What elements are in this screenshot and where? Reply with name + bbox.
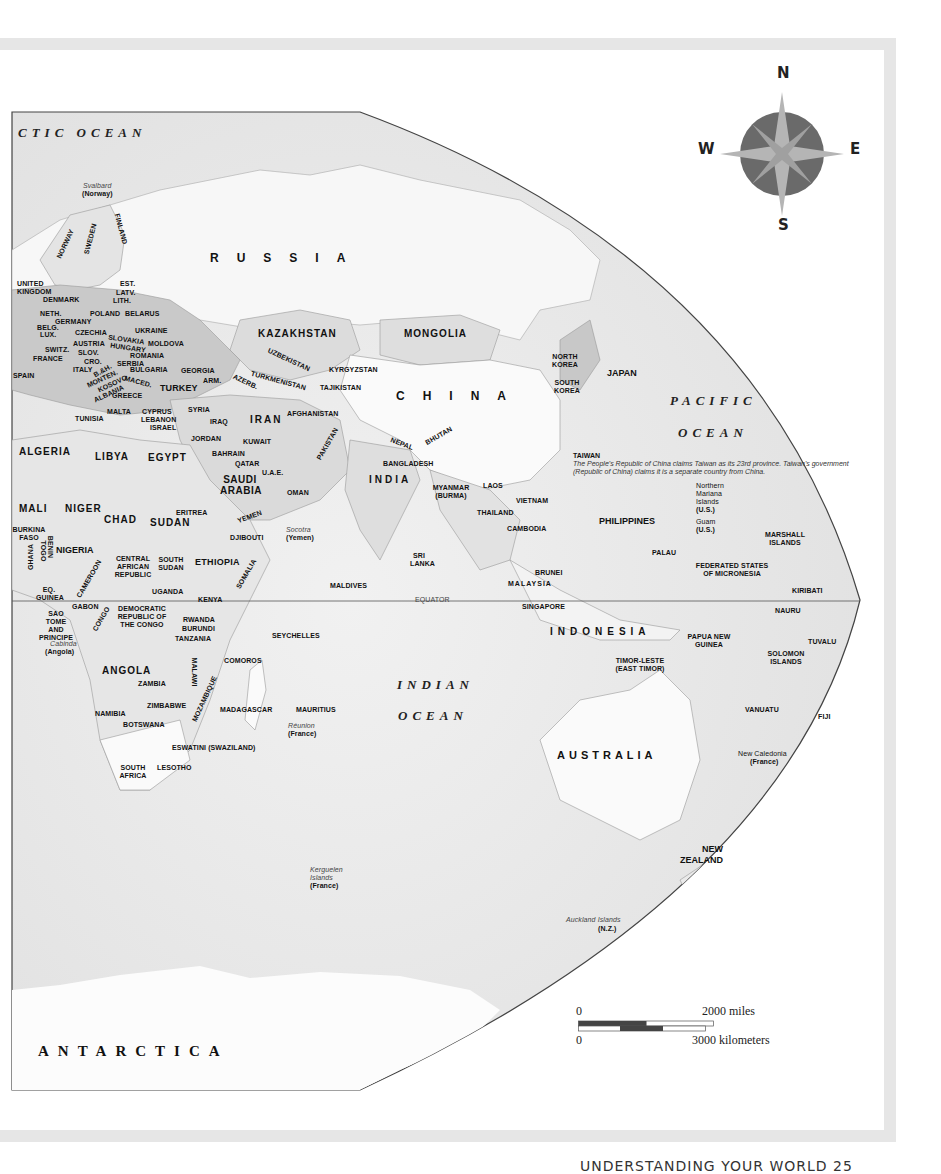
- country-label-maldives: MALDIVES: [330, 582, 367, 590]
- country-label-iran: IRAN: [250, 414, 282, 425]
- country-label-thailand: THAILAND: [477, 509, 514, 517]
- country-label-singapore: SINGAPORE: [522, 603, 565, 611]
- country-label-bulgaria: BULGARIA: [130, 366, 168, 374]
- country-label-bahrain: BAHRAIN: [212, 450, 245, 458]
- socotra-label: Socotra: [286, 526, 311, 534]
- country-label-solomon: SOLOMON ISLANDS: [766, 650, 806, 666]
- country-label-new-zealand: NEW ZEALAND: [675, 844, 723, 866]
- country-label-botswana: BOTSWANA: [123, 721, 165, 729]
- country-label-cro: CRO.: [84, 358, 102, 366]
- page-footer: UNDERSTANDING YOUR WORLD 25: [580, 1158, 853, 1174]
- country-label-moldova: MOLDOVA: [148, 340, 184, 348]
- country-label-spain: SPAIN: [13, 372, 34, 380]
- new-caledonia-owner: (France): [750, 758, 778, 766]
- country-label-micronesia: FEDERATED STATES OF MICRONESIA: [692, 562, 772, 578]
- country-label-poland: POLAND: [90, 310, 120, 318]
- country-label-tunisia: TUNISIA: [75, 415, 104, 423]
- country-label-iraq: IRAQ: [210, 418, 228, 426]
- compass-east: E: [850, 140, 860, 158]
- country-label-south-sudan: SOUTH SUDAN: [158, 556, 184, 572]
- country-label-oman: OMAN: [287, 489, 309, 497]
- pacific-ocean-label-2: OCEAN: [678, 425, 748, 441]
- country-label-brunei: BRUNEI: [535, 569, 562, 577]
- scale-miles-label: 2000 miles: [702, 1004, 755, 1019]
- country-label-lux: LUX.: [40, 331, 56, 339]
- country-label-chad: CHAD: [104, 514, 137, 525]
- country-label-czechia: CZECHIA: [75, 329, 107, 337]
- country-label-seychelles: SEYCHELLES: [272, 632, 320, 640]
- country-label-timor: TIMOR-LESTE (EAST TIMOR): [612, 657, 668, 673]
- country-label-saudi: SAUDI ARABIA: [220, 474, 260, 496]
- auckland-label: Auckland Islands: [566, 916, 621, 924]
- country-label-south-africa: SOUTH AFRICA: [118, 764, 148, 780]
- country-label-palau: PALAU: [652, 549, 676, 557]
- reunion-owner: (France): [288, 730, 316, 738]
- country-label-zimbabwe: ZIMBABWE: [147, 702, 186, 710]
- country-label-car: CENTRAL AFRICAN REPUBLIC: [113, 555, 153, 579]
- country-label-gabon: GABON: [72, 603, 99, 611]
- compass-rose-icon: [720, 82, 850, 222]
- country-label-turkey: TURKEY: [160, 384, 198, 392]
- country-label-niger: NIGER: [65, 503, 102, 514]
- country-label-jordan: JORDAN: [191, 435, 221, 443]
- arctic-ocean-label: CTIC OCEAN: [18, 125, 146, 141]
- reunion-label: Réunion: [288, 722, 315, 730]
- country-label-namibia: NAMIBIA: [95, 710, 126, 718]
- scale-km-zero: 0: [576, 1033, 582, 1048]
- kerguelen-label: Kerguelen Islands: [310, 866, 350, 882]
- country-label-lesotho: LESOTHO: [157, 764, 192, 772]
- country-label-mongolia: MONGOLIA: [404, 328, 467, 339]
- country-label-kyrgyzstan: KYRGYZSTAN: [329, 366, 378, 374]
- country-label-philippines: PHILIPPINES: [599, 516, 655, 527]
- country-label-vietnam: VIETNAM: [516, 497, 548, 505]
- country-label-libya: LIBYA: [95, 451, 129, 462]
- country-label-syria: SYRIA: [188, 406, 210, 414]
- country-label-myanmar: MYANMAR (BURMA): [430, 484, 472, 500]
- equator-label: EQUATOR: [415, 596, 450, 604]
- country-label-cyprus: CYPRUS: [142, 408, 172, 416]
- country-label-comoros: COMOROS: [224, 657, 262, 665]
- indian-ocean-label-2: OCEAN: [398, 708, 468, 724]
- country-label-japan: JAPAN: [607, 368, 637, 379]
- country-label-israel: ISRAEL: [150, 424, 176, 432]
- country-label-tajikistan: TAJIKISTAN: [320, 384, 361, 392]
- northern-mariana-owner: (U.S.): [696, 506, 715, 514]
- country-label-angola: ANGOLA: [102, 665, 151, 676]
- country-label-south-korea: SOUTH KOREA: [552, 379, 582, 395]
- country-label-georgia: GEORGIA: [181, 367, 215, 375]
- country-label-latv: LATV.: [116, 289, 136, 297]
- country-label-kiribati: KIRIBATI: [792, 587, 823, 595]
- country-label-france: FRANCE: [33, 355, 63, 363]
- country-label-burundi: BURUNDI: [182, 625, 215, 633]
- country-label-neth: NETH.: [40, 310, 62, 318]
- country-label-kenya: KENYA: [198, 596, 222, 604]
- country-label-lith: LITH.: [113, 297, 131, 305]
- country-label-kuwait: KUWAIT: [243, 438, 271, 446]
- cabinda-owner: (Angola): [45, 648, 74, 656]
- india-label: INDIA: [369, 474, 411, 485]
- country-label-laos: LAOS: [483, 482, 503, 490]
- country-label-kazakhstan: KAZAKHSTAN: [258, 328, 337, 339]
- socotra-owner: (Yemen): [286, 534, 314, 542]
- country-label-tuvalu: TUVALU: [808, 638, 836, 646]
- country-label-cambodia: CAMBODIA: [507, 525, 546, 533]
- country-label-algeria: ALGERIA: [19, 446, 71, 457]
- country-label-zambia: ZAMBIA: [138, 680, 166, 688]
- australia-label: AUSTRALIA: [557, 750, 657, 761]
- country-label-lebanon: LEBANON: [141, 416, 176, 424]
- country-label-sao-tome: SAO TOME AND PRINCIPE: [38, 610, 74, 642]
- country-label-malta: MALTA: [107, 408, 131, 416]
- country-label-italy: ITALY: [73, 366, 93, 374]
- country-label-afghanistan: AFGHANISTAN: [287, 410, 339, 418]
- country-label-qatar: QATAR: [235, 460, 259, 468]
- scale-km-label: 3000 kilometers: [692, 1033, 770, 1048]
- antarctica-label: ANTARCTICA: [38, 1043, 229, 1060]
- indian-ocean-label-1: INDIAN: [397, 677, 474, 693]
- country-label-png: PAPUA NEW GUINEA: [684, 633, 734, 649]
- country-label-ghana: GHANA: [27, 544, 35, 570]
- country-label-nauru: NAURU: [775, 607, 801, 615]
- country-label-eswatini: ESWATINI (SWAZILAND): [172, 744, 256, 752]
- country-label-uae: U.A.E.: [262, 469, 283, 477]
- country-label-uganda: UGANDA: [152, 588, 183, 596]
- northern-mariana-label: Northern Mariana Islands: [696, 482, 731, 506]
